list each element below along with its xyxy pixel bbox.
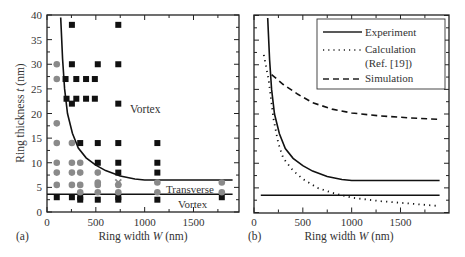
transverse-circle-marker — [94, 169, 101, 176]
y-tick-label: 15 — [31, 132, 43, 144]
x-tick-label: 1000 — [134, 216, 157, 228]
transverse-circle-marker — [94, 182, 101, 189]
vortex-square-marker — [154, 140, 160, 146]
transverse-circle-marker — [53, 159, 60, 166]
x-tick-label: 500 — [88, 216, 105, 228]
panel-a-y-tick-labels: 0510152025303540 — [31, 9, 43, 218]
transverse-circle-marker — [77, 189, 84, 196]
legend-simulation: Simulation — [365, 72, 414, 84]
vortex-square-marker — [115, 197, 121, 203]
figure: Vortex Transverse Vortex 051015202530354… — [0, 0, 465, 257]
transverse-circle-marker — [219, 179, 226, 186]
transverse-circle-marker — [53, 182, 60, 189]
vortex-square-marker — [77, 140, 83, 146]
vortex-square-marker — [92, 76, 98, 82]
vortex-square-marker — [54, 194, 60, 200]
x-tick-label: 1000 — [341, 216, 364, 228]
y-tick-label: 10 — [31, 157, 43, 169]
transverse-circle-marker — [219, 189, 226, 196]
vortex-square-marker — [69, 22, 75, 28]
legend-calculation: Calculation — [365, 43, 416, 55]
vortex-square-marker — [115, 160, 121, 166]
vortex-square-marker — [115, 101, 121, 107]
transverse-circle-marker — [53, 169, 60, 176]
vortex-square-marker — [92, 96, 98, 102]
vortex-square-marker — [154, 160, 160, 166]
annotation-vortex-upper: Vortex — [130, 103, 161, 115]
transverse-circle-marker — [53, 61, 60, 68]
transverse-circle-marker — [154, 179, 161, 186]
vortex-square-marker — [115, 140, 121, 146]
vortex-square-marker — [95, 160, 101, 166]
y-tick-label: 0 — [37, 206, 43, 218]
vortex-square-marker — [83, 76, 89, 82]
transverse-circle-marker — [53, 120, 60, 127]
vortex-square-marker — [83, 96, 89, 102]
transverse-circle-marker — [154, 189, 161, 196]
transverse-circle-marker — [53, 140, 60, 147]
panel-a-label: (a) — [16, 230, 29, 243]
vortex-square-marker — [77, 197, 83, 203]
annotation-transverse: Transverse — [166, 183, 214, 195]
vortex-square-marker — [73, 76, 79, 82]
x-tick-label: 1500 — [389, 216, 412, 228]
transverse-circle-marker — [77, 182, 84, 189]
x-tick-label: 500 — [295, 216, 312, 228]
panel-a-x-tick-labels: 050010001500 — [44, 216, 205, 228]
y-axis-label: Ring thickness t (nm) — [14, 63, 27, 163]
panel-a-x-axis-label: Ring width W (nm) — [98, 230, 187, 243]
vortex-square-marker — [69, 194, 75, 200]
legend-experiment: Experiment — [365, 26, 416, 38]
vortex-square-marker — [95, 197, 101, 203]
vortex-square-marker — [115, 22, 121, 28]
transverse-circle-marker — [94, 189, 101, 196]
transverse-circle-marker — [77, 159, 84, 166]
y-tick-label: 25 — [31, 83, 43, 95]
vortex-square-marker — [115, 61, 121, 67]
transverse-circle-marker — [115, 189, 122, 196]
panel-b-plot: Experiment Calculation (Ref. [19]) Simul… — [248, 15, 449, 243]
vortex-square-marker — [95, 140, 101, 146]
transverse-circle-marker — [69, 159, 76, 166]
x-tick-label: 1500 — [182, 216, 205, 228]
x-tick-label: 0 — [251, 216, 257, 228]
y-tick-label: 40 — [31, 9, 43, 21]
panel-b-x-axis-label: Ring width W (nm) — [304, 230, 393, 243]
vortex-square-marker — [154, 170, 160, 176]
vortex-square-marker — [63, 76, 69, 82]
vortex-square-marker — [73, 96, 79, 102]
y-tick-label: 20 — [31, 108, 43, 120]
y-tick-label: 35 — [31, 34, 43, 46]
panel-b-label: (b) — [248, 230, 262, 243]
annotation-vortex-lower: Vortex — [178, 198, 208, 210]
legend-calculation-ref: (Ref. [19]) — [365, 57, 412, 70]
y-tick-label: 30 — [31, 58, 43, 70]
panel-b-x-tick-labels: 050010001500 — [251, 216, 412, 228]
vortex-square-marker — [95, 61, 101, 67]
transverse-circle-marker — [69, 182, 76, 189]
vortex-square-marker — [64, 96, 70, 102]
vortex-square-marker — [154, 197, 160, 203]
panel-a-plot: Vortex Transverse Vortex 051015202530354… — [14, 9, 239, 243]
transverse-circle-marker — [53, 76, 60, 83]
y-tick-label: 5 — [37, 181, 43, 193]
vortex-square-marker — [115, 170, 121, 176]
transverse-circle-marker — [69, 140, 76, 147]
vortex-square-marker — [69, 61, 75, 67]
x-tick-label: 0 — [44, 216, 50, 228]
legend: Experiment Calculation (Ref. [19]) Simul… — [317, 19, 445, 89]
transverse-circle-marker — [69, 169, 76, 176]
transverse-circle-marker — [77, 169, 84, 176]
